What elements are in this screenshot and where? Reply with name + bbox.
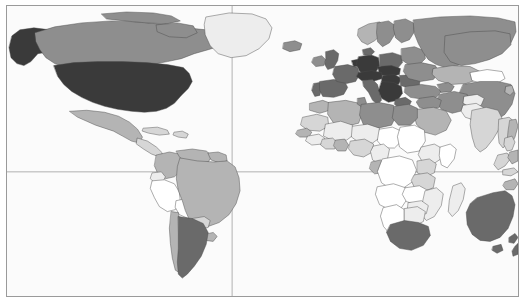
country-denmark — [363, 48, 375, 56]
country-mexico — [70, 110, 143, 143]
country-egypt — [392, 104, 417, 125]
country-south-africa — [387, 221, 431, 251]
world-map-svg — [7, 6, 518, 296]
country-mali — [324, 121, 355, 141]
country-united-states — [54, 62, 192, 113]
country-indonesia-java — [503, 168, 518, 176]
country-cuba — [142, 127, 169, 135]
country-ghana — [334, 139, 349, 151]
country-finland — [393, 19, 414, 43]
country-india — [470, 107, 502, 152]
country-argentina — [177, 217, 208, 279]
country-nigeria — [349, 139, 374, 157]
country-new-zealand-south — [512, 243, 518, 256]
country-tasmania — [492, 244, 503, 253]
country-algeria — [328, 100, 363, 126]
country-sweden — [377, 21, 396, 47]
country-turkey — [404, 84, 441, 99]
country-indonesia-sumatra — [494, 153, 511, 170]
country-madagascar — [448, 183, 465, 217]
country-papua-new-guinea — [503, 179, 518, 190]
country-ireland — [312, 56, 326, 67]
country-philippines — [504, 136, 515, 151]
world-choropleth-figure — [0, 0, 526, 306]
countries-group — [9, 12, 518, 278]
country-russia-east — [444, 31, 511, 66]
country-somalia — [439, 144, 456, 168]
country-indonesia-borneo — [508, 150, 518, 164]
country-dr-congo — [378, 156, 417, 189]
country-france — [333, 65, 360, 84]
country-greenland — [204, 13, 272, 58]
country-caribbean-isles — [173, 131, 188, 138]
country-central-america — [136, 138, 162, 157]
country-new-zealand-north — [509, 233, 518, 243]
country-morocco — [310, 100, 331, 113]
country-iceland — [283, 41, 302, 52]
country-australia — [466, 191, 515, 242]
map-plot-frame — [6, 5, 519, 297]
